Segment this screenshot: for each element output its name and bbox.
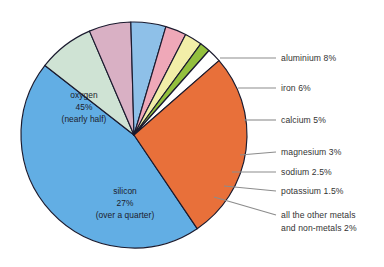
callout-labels-group: aluminium 8% iron 6% calcium 5% magnesiu…: [281, 53, 357, 233]
callout-label-calcium: calcium 5%: [281, 115, 326, 125]
callout-label-potassium: potassium 1.5%: [281, 186, 344, 196]
slice-label-oxygen-note: (nearly half): [62, 114, 107, 124]
slice-label-silicon-note: (over a quarter): [96, 210, 155, 220]
slice-label-oxygen-value: 45%: [76, 102, 93, 112]
leader-line-other: [214, 197, 276, 215]
callout-label-other-line2: and non-metals 2%: [281, 223, 357, 233]
pie-chart-figure: aluminium 8% iron 6% calcium 5% magnesiu…: [0, 0, 384, 267]
callout-label-other-line1: all the other metals: [281, 210, 356, 220]
slice-label-oxygen-name: oxygen: [70, 90, 98, 100]
callout-label-aluminium: aluminium 8%: [281, 53, 336, 63]
callout-label-iron: iron 6%: [281, 83, 311, 93]
earth-crust-composition-pie: aluminium 8% iron 6% calcium 5% magnesiu…: [0, 0, 384, 267]
slice-label-silicon-name: silicon: [113, 186, 137, 196]
callout-label-sodium: sodium 2.5%: [281, 167, 332, 177]
callout-label-magnesium: magnesium 3%: [281, 147, 342, 157]
slice-label-silicon-value: 27%: [117, 198, 134, 208]
